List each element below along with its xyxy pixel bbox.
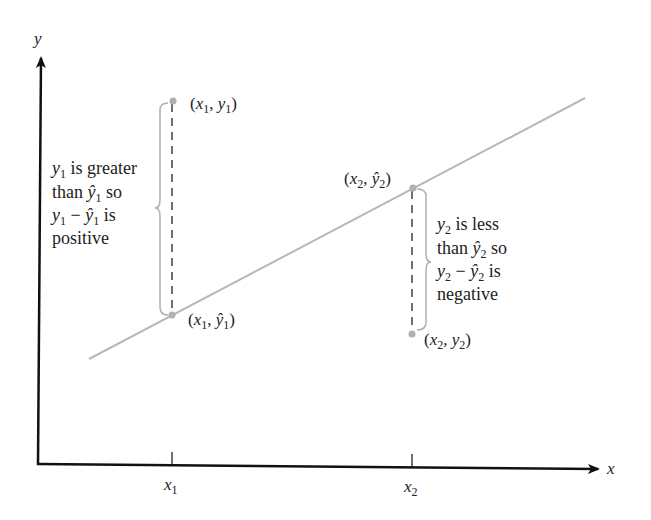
left-annotation: y1 is greater than ŷ1 so y1 − ŷ1 is posi… bbox=[50, 158, 137, 248]
point-x2-y2 bbox=[409, 331, 416, 338]
y-axis-label: y bbox=[32, 29, 42, 48]
left-brace bbox=[155, 103, 168, 315]
x-axis-label: x bbox=[606, 459, 615, 478]
svg-text:y1 is greater: y1 is greater bbox=[50, 158, 137, 181]
point-x2-yhat2 bbox=[410, 185, 417, 192]
svg-text:negative: negative bbox=[437, 284, 498, 304]
regression-line bbox=[89, 98, 585, 359]
x-axis bbox=[37, 464, 598, 469]
point-x1-yhat1 bbox=[169, 312, 176, 319]
svg-text:than ŷ2 so: than ŷ2 so bbox=[437, 238, 507, 261]
y-axis bbox=[38, 58, 41, 465]
svg-text:than ŷ1 so: than ŷ1 so bbox=[52, 182, 122, 205]
label-x1-yhat1: (x1, ŷ1) bbox=[188, 310, 235, 332]
svg-text:y2 is less: y2 is less bbox=[435, 214, 499, 237]
point-x1-y1 bbox=[170, 98, 177, 105]
x1-tick-label: x1 bbox=[163, 475, 178, 497]
right-annotation: y2 is less than ŷ2 so y2 − ŷ2 is negativ… bbox=[435, 214, 507, 304]
svg-text:y1 − ŷ1 is: y1 − ŷ1 is bbox=[50, 205, 116, 228]
residuals-diagram: y x x1 x2 (x1, y1) (x1, ŷ1) (x2, ŷ2) (x2… bbox=[0, 0, 651, 520]
svg-text:y2 − ŷ2 is: y2 − ŷ2 is bbox=[435, 261, 501, 284]
x2-tick-label: x2 bbox=[403, 477, 418, 499]
svg-text:positive: positive bbox=[52, 228, 109, 248]
right-brace bbox=[417, 189, 431, 330]
label-x2-y2: (x2, y2) bbox=[424, 330, 471, 352]
label-x2-yhat2: (x2, ŷ2) bbox=[344, 169, 391, 191]
label-x1-y1: (x1, y1) bbox=[190, 94, 237, 116]
